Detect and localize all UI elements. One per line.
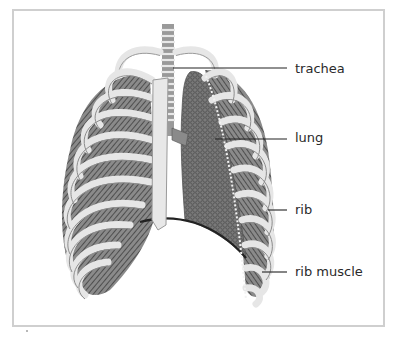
label-lung: lung bbox=[295, 131, 323, 145]
stray-mark bbox=[26, 330, 28, 332]
label-trachea: trachea bbox=[295, 62, 345, 76]
label-rib: rib bbox=[295, 203, 312, 217]
label-rib-muscle: rib muscle bbox=[295, 265, 363, 279]
sternum bbox=[152, 78, 168, 230]
rib-cage-illustration bbox=[0, 0, 393, 338]
